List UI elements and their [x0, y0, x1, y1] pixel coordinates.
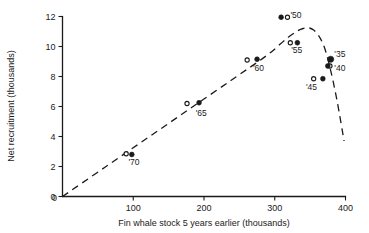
year-label: '40	[334, 63, 345, 73]
x-tick-label: 100	[126, 203, 141, 213]
year-annotations: '50'55'35'40'45'60'65'70	[128, 10, 345, 167]
axes	[63, 17, 346, 197]
chart-container: 024681012 0100200300400 '50'55'35'40'45'…	[0, 0, 369, 233]
data-point-filled	[325, 64, 330, 69]
data-point-filled	[320, 76, 325, 81]
y-tick-label: 6	[50, 102, 55, 112]
observed-filled-markers	[129, 15, 333, 157]
y-tick-label: 2	[50, 162, 55, 172]
data-point-open	[312, 77, 316, 81]
x-tick-label: 400	[338, 203, 353, 213]
year-label: '55	[291, 45, 302, 55]
y-tick-label: 8	[50, 72, 55, 82]
x-axis-ticks: 0100200300400	[52, 193, 353, 213]
y-tick-label: 12	[45, 12, 55, 22]
data-point-filled	[255, 57, 260, 62]
data-point-open	[124, 152, 128, 156]
year-label: '70	[128, 157, 139, 167]
x-axis-title: Fin whale stock 5 years earlier (thousan…	[118, 218, 290, 228]
year-label: '35	[334, 49, 345, 59]
x-tick-label: 200	[196, 203, 211, 213]
y-axis-title: Net recruitment (thousands)	[6, 50, 16, 162]
data-point-open	[245, 58, 249, 62]
year-label: '60	[253, 63, 264, 73]
y-axis-ticks: 024681012	[45, 12, 62, 202]
data-point-filled	[279, 15, 284, 20]
data-point-open	[185, 101, 189, 105]
scatter-plot: 024681012 0100200300400 '50'55'35'40'45'…	[0, 0, 369, 233]
year-label: '65	[196, 108, 207, 118]
data-point-filled	[197, 100, 202, 105]
year-label: '45	[306, 82, 317, 92]
data-point-open	[288, 41, 292, 45]
data-point-open	[285, 15, 289, 19]
x-tick-label-zero: 0	[52, 193, 57, 203]
observed-open-markers	[124, 15, 332, 156]
y-tick-label: 4	[50, 132, 55, 142]
y-tick-label: 10	[45, 42, 55, 52]
x-tick-label: 300	[267, 203, 282, 213]
data-point-filled	[328, 56, 334, 62]
year-label: '50	[290, 10, 301, 20]
